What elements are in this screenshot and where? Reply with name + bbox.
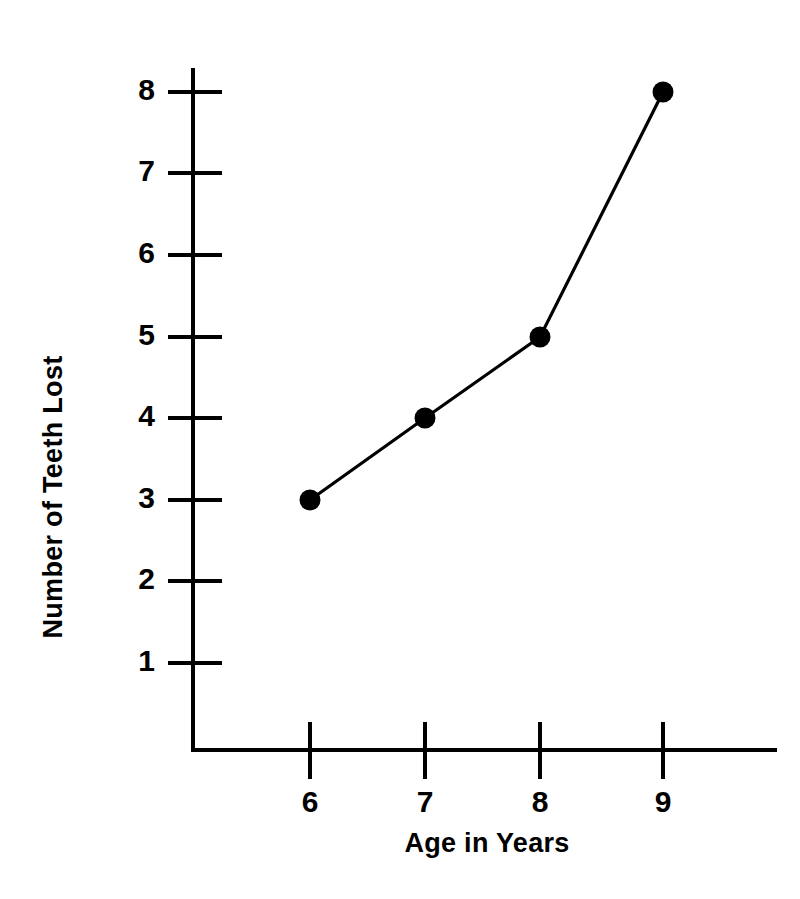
x-axis-title: Age in Years [404,828,569,858]
y-tick-label-8: 8 [138,73,155,106]
data-point-age-7[interactable] [415,408,436,429]
data-point-age-8[interactable] [530,327,551,348]
y-tick-label-5: 5 [138,318,155,351]
y-tick-label-3: 3 [138,481,155,514]
y-tick-label-6: 6 [138,236,155,269]
line-chart-figure: 8 7 6 5 4 3 2 1 6 7 8 9 Age in Years Num… [0,0,800,899]
chart-canvas: 8 7 6 5 4 3 2 1 6 7 8 9 Age in Years Num… [0,0,800,899]
x-tick-label-9: 9 [655,785,672,818]
x-tick-label-8: 8 [532,785,549,818]
y-tick-label-2: 2 [138,562,155,595]
y-axis-title: Number of Teeth Lost [38,355,68,638]
data-point-age-9[interactable] [653,82,674,103]
y-tick-label-1: 1 [138,644,155,677]
data-series-line [310,92,663,500]
y-tick-label-4: 4 [138,399,155,432]
y-tick-label-7: 7 [138,154,155,187]
x-tick-label-7: 7 [417,785,434,818]
x-tick-label-6: 6 [302,785,319,818]
data-point-age-6[interactable] [300,490,321,511]
